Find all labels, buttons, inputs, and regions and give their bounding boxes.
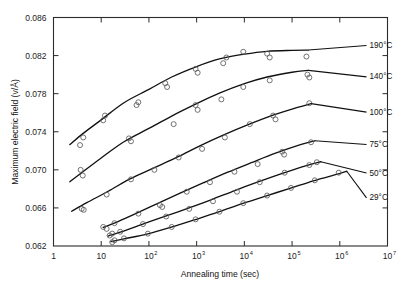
x-tick-label: 1 <box>51 251 56 261</box>
x-tick-exponent: 5 <box>297 250 300 256</box>
curve-label-leader <box>321 162 367 173</box>
data-point-marker <box>78 167 83 172</box>
y-axis-title: Maximum electric field (v/Å) <box>10 79 20 185</box>
curve-label-75c: 75°C <box>370 140 388 149</box>
data-point-marker <box>267 55 272 60</box>
curve-100c <box>72 104 311 212</box>
data-point-marker <box>200 146 205 151</box>
curve-label-leader <box>311 104 366 112</box>
curve-label-leader <box>347 171 367 198</box>
data-point-marker <box>81 135 86 140</box>
annealing-field-chart: 0.0620.0660.0700.0740.0780.0820.086 1101… <box>0 0 408 285</box>
x-axis-title: Annealing time (sec) <box>181 269 259 279</box>
data-point-marker <box>304 54 309 59</box>
x-tick-exponent: 7 <box>393 250 396 256</box>
data-point-marker <box>80 173 85 178</box>
curve-label-29c: 29°C <box>370 193 388 202</box>
y-tick-label: 0.086 <box>25 13 47 23</box>
x-tick-exponent: 4 <box>250 250 253 256</box>
curve-label-140c: 140°C <box>370 72 393 81</box>
data-curves <box>70 50 347 242</box>
curve-label-100c: 100°C <box>370 108 393 117</box>
curve-140c <box>70 70 309 181</box>
curve-label-leader <box>308 45 366 50</box>
data-point-marker <box>78 143 83 148</box>
x-tick-label: 10 <box>240 251 250 261</box>
x-tick-exponent: 6 <box>345 250 348 256</box>
curve-190c <box>70 50 309 145</box>
x-axis-tick-labels: 110102103104105106107 <box>51 250 396 261</box>
y-tick-label: 0.078 <box>25 89 47 99</box>
data-point-marker <box>195 107 200 112</box>
data-point-marker <box>221 61 226 66</box>
x-tick-label: 10 <box>287 251 297 261</box>
y-tick-label: 0.070 <box>25 165 47 175</box>
curve-label-leader <box>308 70 366 77</box>
data-point-marker <box>219 97 224 102</box>
curve-label-190c: 190°C <box>370 41 393 50</box>
curve-label-leader <box>315 141 367 145</box>
data-point-marker <box>241 85 246 90</box>
x-tick-label: 10 <box>335 251 345 261</box>
curve-label-50c: 50°C <box>370 169 388 178</box>
y-tick-label: 0.066 <box>25 203 47 213</box>
data-point-marker <box>267 78 272 83</box>
x-tick-label: 10 <box>96 251 106 261</box>
x-tick-label: 10 <box>383 251 393 261</box>
y-tick-label: 0.082 <box>25 51 47 61</box>
chart-figure: 0.0620.0660.0700.0740.0780.0820.086 1101… <box>0 0 408 285</box>
data-point-marker <box>171 122 176 127</box>
x-tick-label: 10 <box>144 251 154 261</box>
y-tick-label: 0.074 <box>25 127 47 137</box>
y-axis-tick-labels: 0.0620.0660.0700.0740.0780.0820.086 <box>25 13 47 252</box>
data-point-marker <box>273 117 278 122</box>
curve-labels: 190°C140°C100°C75°C50°C29°C <box>370 41 393 202</box>
data-point-marker <box>255 162 260 167</box>
data-point-marker <box>222 135 227 140</box>
x-tick-exponent: 2 <box>154 250 157 256</box>
data-point-marker <box>241 49 246 54</box>
y-tick-label: 0.062 <box>25 241 47 251</box>
x-tick-label: 10 <box>192 251 202 261</box>
x-tick-exponent: 3 <box>202 250 205 256</box>
